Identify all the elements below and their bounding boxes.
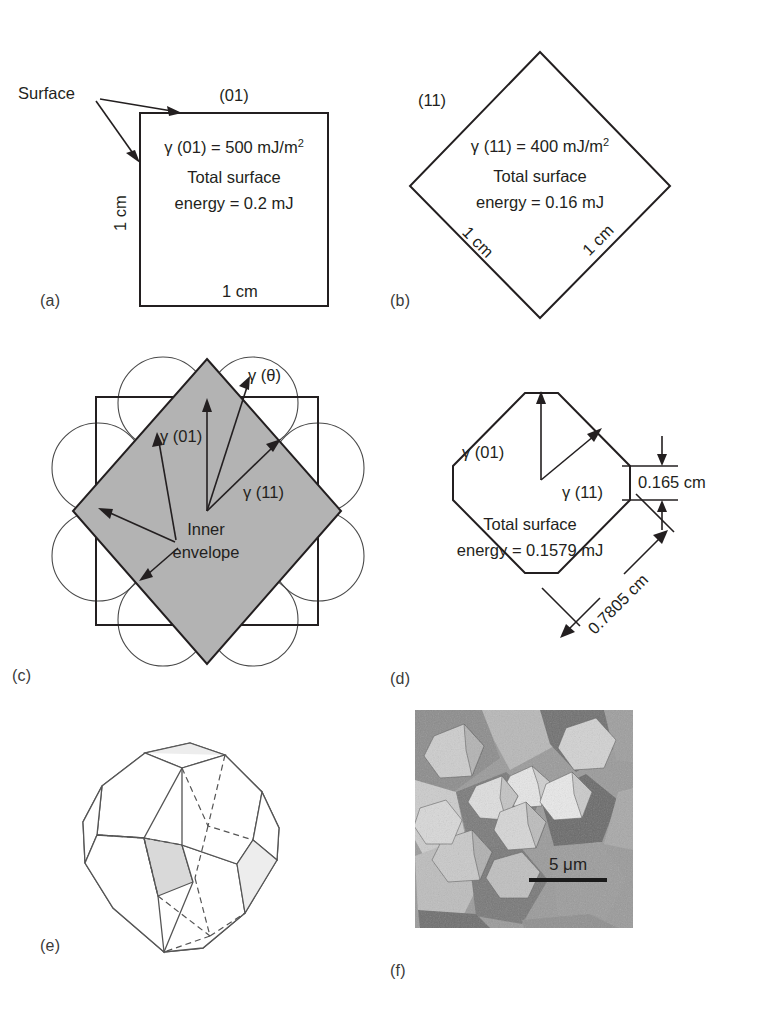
panel-f: 5 μm (f) <box>390 700 771 1000</box>
scale-bar-label: 5 μm <box>549 855 587 874</box>
crystal-polyhedron <box>83 743 279 952</box>
gamma-01-symbol: γ (01) <box>164 138 206 156</box>
gamma-11-exponent: 2 <box>603 136 609 148</box>
face-index-11-label: (11) <box>418 91 446 109</box>
gamma-01-value: = 500 mJ/m <box>206 138 297 156</box>
total-surface-d-line2: energy = 0.1579 mJ <box>457 541 603 559</box>
panel-a-drawing: Surface (01) γ (01) = 500 mJ/m2 Total su… <box>0 55 390 320</box>
panel-e-drawing <box>40 700 380 1000</box>
panel-label-b: (b) <box>390 292 410 310</box>
gamma-01-energy-line: γ (01) = 500 mJ/m2 <box>164 137 304 156</box>
gamma-01-label-c: γ (01) <box>160 427 202 445</box>
gamma-11-label-d: γ (11) <box>562 483 603 501</box>
inner-envelope-label-line2: envelope <box>173 543 240 561</box>
panel-d-drawing: γ (01) γ (11) Total surface energy = 0.1… <box>390 370 771 690</box>
total-surface-b-line1: Total surface <box>493 167 587 185</box>
gamma-01-arrow-d <box>536 391 546 480</box>
callout-arrow-top <box>100 99 178 112</box>
callout-arrow-left <box>96 101 137 159</box>
panel-d: γ (01) γ (11) Total surface energy = 0.1… <box>390 370 771 690</box>
gamma-11-arrow-d <box>541 428 602 480</box>
panel-c: γ (01) γ (θ) γ (11) Inner envelope (c) <box>0 330 390 690</box>
short-dimension-label: 0.165 cm <box>638 473 706 491</box>
left-dimension-label: 1 cm <box>111 195 129 231</box>
surface-callout-label: Surface <box>18 84 75 102</box>
scale-bar <box>529 878 607 882</box>
gamma-theta-label-c: γ (θ) <box>248 366 281 384</box>
right-edge-dimension-label: 1 cm <box>579 221 617 259</box>
panel-label-f: (f) <box>390 962 406 980</box>
panel-b-drawing: (11) γ (11) = 400 mJ/m2 Total surface en… <box>390 30 771 330</box>
panel-c-drawing: γ (01) γ (θ) γ (11) Inner envelope <box>0 330 390 690</box>
top-face-index-label: (01) <box>219 86 248 104</box>
panel-label-a: (a) <box>40 292 60 310</box>
figure-root: Surface (01) γ (01) = 500 mJ/m2 Total su… <box>0 0 771 1022</box>
total-surface-b-line2: energy = 0.16 mJ <box>476 193 604 211</box>
total-surface-d-line1: Total surface <box>483 515 577 533</box>
gamma-01-exponent: 2 <box>298 137 304 149</box>
sem-noise-overlay <box>415 710 633 928</box>
panel-a: Surface (01) γ (01) = 500 mJ/m2 Total su… <box>0 55 390 320</box>
inner-envelope-label-line1: Inner <box>187 520 225 538</box>
total-surface-line1: Total surface <box>187 168 281 186</box>
panel-label-c: (c) <box>12 667 31 685</box>
diamond-11-outline <box>410 52 670 318</box>
callout-arrowhead-top <box>167 106 182 116</box>
panel-label-d: (d) <box>390 670 410 688</box>
bottom-dimension-label: 1 cm <box>222 282 258 300</box>
gamma-11-symbol: γ (11) <box>471 137 512 155</box>
total-surface-line2: energy = 0.2 mJ <box>175 194 294 212</box>
panel-f-micrograph: 5 μm <box>390 700 771 1000</box>
gamma-01-label-d: γ (01) <box>462 443 504 461</box>
callout-arrowhead-left <box>126 150 140 163</box>
gamma-11-label-c: γ (11) <box>243 483 284 501</box>
panel-label-e: (e) <box>40 937 60 955</box>
gamma-11-energy-line: γ (11) = 400 mJ/m2 <box>471 136 609 155</box>
gamma-11-value: = 400 mJ/m <box>512 137 603 155</box>
panel-b: (11) γ (11) = 400 mJ/m2 Total surface en… <box>390 30 771 330</box>
panel-e: (e) <box>40 700 380 1000</box>
